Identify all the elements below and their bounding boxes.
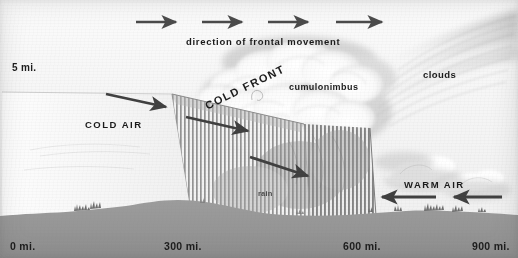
cold-front-diagram: direction of frontal movement cumulonimb… xyxy=(0,0,518,258)
label-warm-air: WARM AIR xyxy=(404,180,465,190)
axis-tick-300mi: 300 mi. xyxy=(164,241,202,252)
axis-tick-600mi: 600 mi. xyxy=(343,241,381,252)
axis-tick-900mi: 900 mi. xyxy=(472,241,510,252)
label-clouds: clouds xyxy=(423,70,456,80)
label-altitude-5mi: 5 mi. xyxy=(12,63,36,73)
label-direction-of-frontal-movement: direction of frontal movement xyxy=(186,37,340,47)
label-cumulonimbus: cumulonimbus xyxy=(289,83,358,92)
label-rain: rain xyxy=(258,190,273,198)
label-cold-air: COLD AIR xyxy=(85,120,143,130)
axis-tick-0mi: 0 mi. xyxy=(10,241,35,252)
